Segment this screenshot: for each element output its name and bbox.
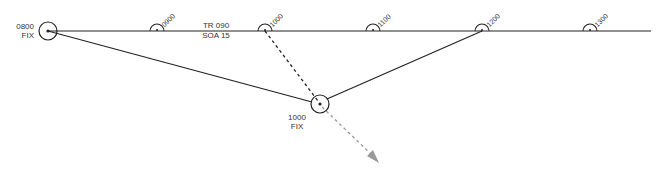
fix-0800-label: FIX [8,31,34,40]
set-drift-line [265,31,318,101]
track-label: TR 090 [196,21,236,30]
plot-canvas [0,0,667,174]
speed-label: SOA 15 [196,31,236,40]
fix-0800-time: 0800 [8,22,34,31]
set-drift-extension [322,107,372,155]
fix-1000-icon [311,95,329,113]
fix-1000-label: FIX [282,122,312,131]
course-leg-2 [327,31,482,99]
fix-1000-time: 1000 [282,113,312,122]
arrow-head-icon [367,150,379,163]
